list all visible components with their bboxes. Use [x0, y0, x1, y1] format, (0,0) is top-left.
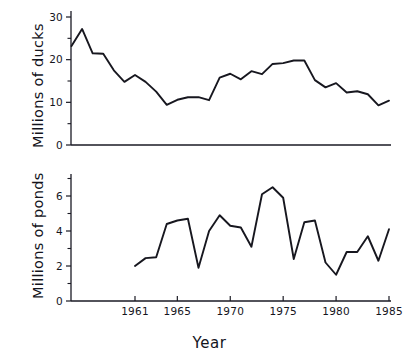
y-tick-label: 6 — [56, 190, 63, 202]
duck-pond-figure: Millions of ducks Millions of ponds Year… — [0, 0, 419, 359]
x-tick-label: 1965 — [164, 305, 192, 317]
y-tick-label: 0 — [56, 139, 63, 151]
x-tick-label: 1980 — [322, 305, 350, 317]
x-tick-label: 1961 — [121, 305, 149, 317]
y-tick-label: 2 — [56, 260, 63, 272]
y-tick-label: 10 — [49, 96, 63, 108]
chart-canvas: 01020300246196119651970197519801985 — [0, 0, 419, 359]
x-tick-label: 1975 — [269, 305, 297, 317]
y-tick-label: 0 — [56, 295, 63, 307]
y-tick-label: 30 — [49, 11, 63, 23]
y-tick-label: 4 — [56, 225, 63, 237]
series-line-ponds — [135, 187, 389, 275]
panel-ponds: 0246196119651970197519801985 — [56, 174, 403, 317]
x-tick-label: 1985 — [375, 305, 403, 317]
y-tick-label: 20 — [49, 53, 63, 65]
panel-ducks: 0102030 — [49, 11, 391, 151]
series-line-ducks — [72, 29, 390, 105]
x-tick-label: 1970 — [216, 305, 244, 317]
